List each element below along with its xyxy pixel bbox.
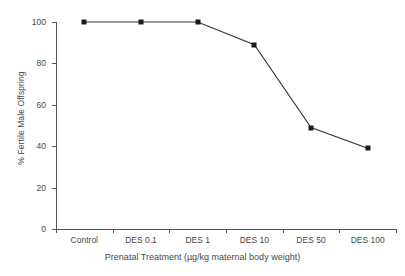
data-point-marker [82, 20, 87, 25]
x-tick-label: Control [71, 235, 98, 245]
data-point-marker [309, 125, 314, 130]
y-tick-label: 20 [37, 183, 46, 193]
x-tick-label: DES 10 [240, 235, 269, 245]
y-tick-label: 40 [37, 141, 46, 151]
chart-figure: % Fertile Male Offspring 0 20 40 60 80 1… [0, 0, 405, 276]
y-tick-label: 60 [37, 100, 46, 110]
x-tick-mark [339, 229, 340, 233]
x-tick-mark [226, 229, 227, 233]
series-line [56, 22, 396, 229]
y-tick-label: 0 [41, 224, 46, 234]
x-tick-mark [169, 229, 170, 233]
y-tick-label: 100 [32, 17, 46, 27]
x-tick-label: DES 50 [296, 235, 325, 245]
data-point-marker [252, 42, 257, 47]
x-tick-mark [396, 229, 397, 233]
x-tick-mark [283, 229, 284, 233]
y-axis-title: % Fertile Male Offspring [14, 3, 28, 233]
data-point-marker [139, 20, 144, 25]
x-tick-mark [113, 229, 114, 233]
data-point-marker [195, 20, 200, 25]
data-point-marker [365, 146, 370, 151]
x-axis-title: Prenatal Treatment (µg/kg maternal body … [0, 252, 405, 262]
x-tick-label: DES 1 [185, 235, 210, 245]
plot-area: 0 20 40 60 80 100 Control DES 0.1 DES 1 … [56, 22, 396, 229]
x-tick-label: DES 0.1 [125, 235, 157, 245]
x-tick-mark [56, 229, 57, 233]
y-tick-label: 80 [37, 58, 46, 68]
x-tick-label: DES 100 [351, 235, 385, 245]
